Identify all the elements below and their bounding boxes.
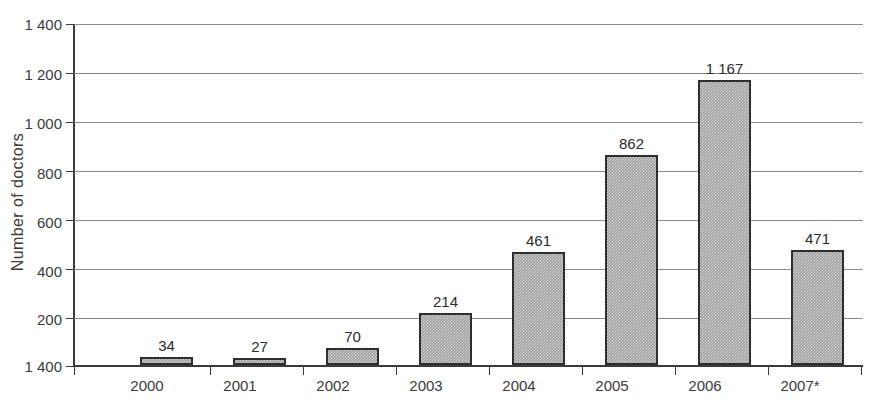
x-label-2001: 2001: [207, 377, 273, 394]
x-tick-mark-0: [74, 366, 75, 375]
y-axis-title: Number of doctors: [0, 0, 36, 404]
y-tick-label-1200: 1 200: [0, 66, 62, 83]
y-tick-mark-1000: [66, 122, 74, 123]
x-label-2004: 2004: [486, 377, 552, 394]
bar-chart: Number of doctors 1 400 1 200 1 000 800 …: [0, 0, 889, 404]
x-label-2003: 2003: [393, 377, 459, 394]
bar-value-2003: 214: [419, 293, 472, 310]
x-label-2006: 2006: [672, 377, 738, 394]
bar-2004[interactable]: [512, 252, 565, 365]
y-tick-mark-0: [66, 366, 74, 367]
gridline-1400: [74, 24, 863, 25]
y-tick-label-200: 200: [0, 311, 62, 328]
bar-value-2007: 471: [791, 230, 844, 247]
bar-value-2000: 34: [140, 337, 193, 354]
x-label-2007: 2007*: [763, 377, 837, 394]
x-tick-mark-3: [396, 366, 397, 375]
x-tick-mark-6: [675, 366, 676, 375]
x-tick-mark-4: [489, 366, 490, 375]
x-tick-mark-5: [582, 366, 583, 375]
bar-2006[interactable]: [698, 80, 751, 365]
bar-2003[interactable]: [419, 313, 472, 365]
y-tick-label-800: 800: [0, 165, 62, 182]
y-tick-mark-1400: [66, 24, 74, 25]
bar-2000[interactable]: [140, 357, 193, 365]
x-label-2005: 2005: [579, 377, 645, 394]
bar-value-2001: 27: [233, 338, 286, 355]
y-tick-label-1400-top: 1 400: [0, 16, 62, 33]
bar-2002[interactable]: [326, 348, 379, 365]
bar-2007[interactable]: [791, 250, 844, 365]
x-tick-mark-1: [210, 366, 211, 375]
bar-value-2006: 1 167: [694, 60, 755, 77]
bar-2001[interactable]: [233, 358, 286, 365]
y-tick-label-1000: 1 000: [0, 115, 62, 132]
x-label-2000: 2000: [114, 377, 180, 394]
bar-value-2005: 862: [605, 135, 658, 152]
plot-area: 34 27 70 214 461 862 1 167 471: [74, 24, 863, 366]
bar-2005[interactable]: [605, 155, 658, 365]
y-tick-label-baseline: 1 400: [0, 358, 62, 375]
x-tick-mark-2: [303, 366, 304, 375]
y-tick-mark-200: [66, 318, 74, 319]
y-tick-label-600: 600: [0, 214, 62, 231]
x-label-2002: 2002: [300, 377, 366, 394]
bar-value-2004: 461: [512, 232, 565, 249]
y-tick-mark-800: [66, 171, 74, 172]
x-tick-mark-8: [861, 366, 862, 375]
bar-value-2002: 70: [326, 328, 379, 345]
gridline-baseline: [74, 365, 863, 367]
y-tick-mark-1200: [66, 73, 74, 74]
y-tick-mark-600: [66, 220, 74, 221]
y-tick-mark-400: [66, 269, 74, 270]
x-tick-mark-7: [768, 366, 769, 375]
y-tick-label-400: 400: [0, 263, 62, 280]
